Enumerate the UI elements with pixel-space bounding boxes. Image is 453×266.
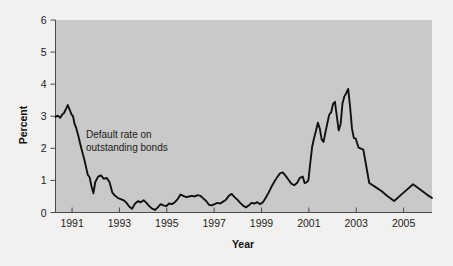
annotation-line-1: Default rate on [86, 129, 152, 140]
y-axis-title: Percent [17, 105, 29, 144]
y-tick-label: 3 [41, 110, 47, 122]
default-rate-line-chart: 0123456 19911993199519971999200120032005… [0, 0, 453, 266]
x-tick-label: 2003 [345, 217, 369, 229]
x-tick-label: 1993 [108, 217, 132, 229]
x-tick-label: 1995 [155, 217, 179, 229]
y-tick-label: 0 [41, 207, 47, 219]
x-tick-label: 1999 [250, 217, 274, 229]
y-tick-label: 2 [41, 142, 47, 154]
x-tick-label: 1991 [60, 217, 84, 229]
chart-figure: 0123456 19911993199519971999200120032005… [0, 0, 453, 266]
annotation-line-2: outstanding bonds [86, 142, 168, 153]
x-tick-label: 2005 [392, 217, 416, 229]
y-tick-label: 5 [41, 46, 47, 58]
y-tick-label: 1 [41, 174, 47, 186]
x-axis-title: Year [232, 238, 254, 250]
x-tick-label: 2001 [297, 217, 321, 229]
y-tick-label: 6 [41, 14, 47, 26]
y-tick-label: 4 [41, 78, 47, 90]
plot-area-background [55, 20, 432, 212]
x-tick-label: 1997 [202, 217, 226, 229]
